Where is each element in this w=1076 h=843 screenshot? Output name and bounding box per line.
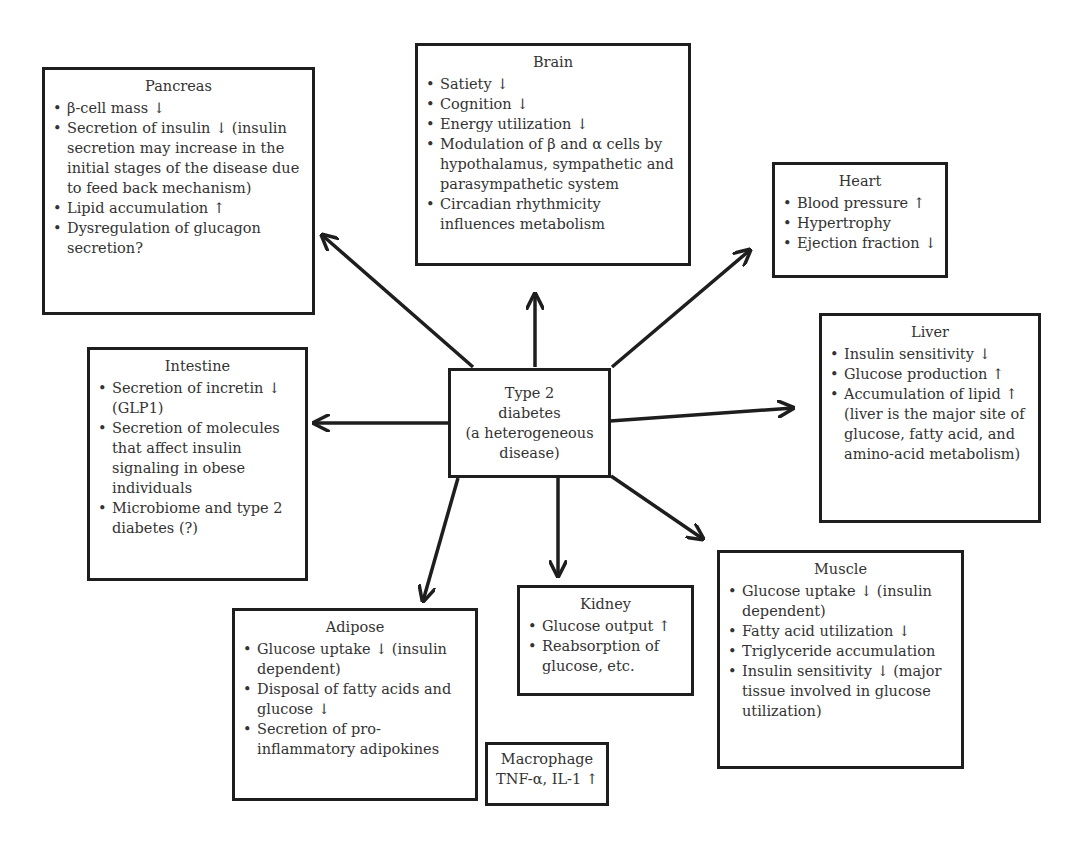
effect-item: Ejection fraction ↓ <box>783 233 937 253</box>
node-title: Heart <box>783 171 937 191</box>
effect-list: Satiety ↓ Cognition ↓ Energy utilization… <box>426 74 680 234</box>
effect-item: Glucose output ↑ <box>528 616 683 636</box>
effect-item: Secretion of pro-inflammatory adipokines <box>243 719 467 759</box>
node-title: Pancreas <box>53 76 304 96</box>
effect-list: Blood pressure ↑ Hypertrophy Ejection fr… <box>783 193 937 253</box>
node-adipose: Adipose Glucose uptake ↓ (insulin depend… <box>232 608 478 801</box>
effect-list: β-cell mass ↓ Secretion of insulin ↓ (in… <box>53 98 304 258</box>
node-title: Adipose <box>243 617 467 637</box>
effect-list: Glucose uptake ↓ (insulin dependent) Dis… <box>243 639 467 759</box>
effect-item: Satiety ↓ <box>426 74 680 94</box>
effect-list: Glucose output ↑ Reabsorption of glucose… <box>528 616 683 676</box>
effect-item: Dysregulation of glucagon secretion? <box>53 218 304 258</box>
node-title: Liver <box>830 322 1030 342</box>
effect-item: Accumulation of lipid ↑ (liver is the ma… <box>830 384 1030 464</box>
effect-item: Circadian rhythmicity influences metabol… <box>426 194 680 234</box>
node-title: Brain <box>426 52 680 72</box>
effect-item: Secretion of insulin ↓ (insulin secretio… <box>53 118 304 198</box>
node-muscle: Muscle Glucose uptake ↓ (insulin depende… <box>717 550 964 769</box>
effect-list: Glucose uptake ↓ (insulin dependent) Fat… <box>728 581 953 721</box>
arrow-to-heart <box>612 250 750 367</box>
effect-list: Insulin sensitivity ↓ Glucose production… <box>830 344 1030 464</box>
node-heart: Heart Blood pressure ↑ Hypertrophy Eject… <box>772 162 948 278</box>
node-title: Muscle <box>728 559 953 579</box>
effect-item: Blood pressure ↑ <box>783 193 937 213</box>
node-liver: Liver Insulin sensitivity ↓ Glucose prod… <box>819 313 1041 523</box>
effect-item: Insulin sensitivity ↓ (major tissue invo… <box>728 661 953 721</box>
node-brain: Brain Satiety ↓ Cognition ↓ Energy utili… <box>415 43 691 266</box>
effect-item: Lipid accumulation ↑ <box>53 198 304 218</box>
node-intestine: Intestine Secretion of incretin ↓ (GLP1)… <box>87 347 308 581</box>
arrow-to-liver <box>610 408 793 421</box>
macrophage-detail: TNF-α, IL-1 ↑ <box>494 769 600 789</box>
center-line: (a heterogeneous <box>465 423 593 443</box>
effect-item: β-cell mass ↓ <box>53 98 304 118</box>
center-line: Type 2 <box>505 383 555 403</box>
effect-item: Microbiome and type 2 diabetes (?) <box>98 498 297 538</box>
effect-item: Secretion of incretin ↓ (GLP1) <box>98 378 297 418</box>
center-node-type2-diabetes: Type 2 diabetes (a heterogeneous disease… <box>448 368 611 478</box>
node-macrophage: Macrophage TNF-α, IL-1 ↑ <box>485 742 609 806</box>
effect-item: Energy utilization ↓ <box>426 114 680 134</box>
node-kidney: Kidney Glucose output ↑ Reabsorption of … <box>517 585 694 696</box>
arrow-to-adipose <box>423 478 458 601</box>
effect-item: Cognition ↓ <box>426 94 680 114</box>
node-title: Intestine <box>98 356 297 376</box>
effect-item: Fatty acid utilization ↓ <box>728 621 953 641</box>
effect-item: Glucose uptake ↓ (insulin dependent) <box>728 581 953 621</box>
effect-list: Secretion of incretin ↓ (GLP1) Secretion… <box>98 378 297 538</box>
effect-item: Hypertrophy <box>783 213 937 233</box>
node-title: Kidney <box>528 594 683 614</box>
effect-item: Disposal of fatty acids and glucose ↓ <box>243 679 467 719</box>
macrophage-title: Macrophage <box>494 749 600 769</box>
effect-item: Glucose uptake ↓ (insulin dependent) <box>243 639 467 679</box>
effect-item: Triglyceride accumulation <box>728 641 953 661</box>
center-line: diabetes <box>498 403 560 423</box>
effect-item: Secretion of molecules that affect insul… <box>98 418 297 498</box>
effect-item: Insulin sensitivity ↓ <box>830 344 1030 364</box>
effect-item: Reabsorption of glucose, etc. <box>528 636 683 676</box>
node-pancreas: Pancreas β-cell mass ↓ Secretion of insu… <box>42 67 315 315</box>
effect-item: Modulation of β and α cells by hypothala… <box>426 134 680 194</box>
arrow-to-muscle <box>611 476 703 539</box>
effect-item: Glucose production ↑ <box>830 364 1030 384</box>
center-line: disease) <box>499 443 559 463</box>
